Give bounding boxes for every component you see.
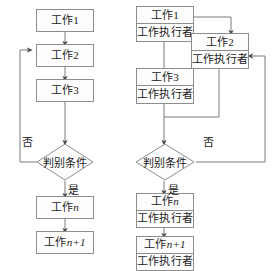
- node-r-work3[interactable]: 工作3 工作执行者: [136, 68, 194, 104]
- node-r-decision[interactable]: 判别条件: [135, 143, 195, 181]
- node-r-workn1[interactable]: 工作n+1 工作执行者: [136, 236, 194, 271]
- node-label: 工作3: [37, 80, 93, 101]
- node-label: 工作1: [37, 10, 93, 31]
- node-sublabel: 工作执行者: [137, 254, 193, 271]
- node-r-workn[interactable]: 工作n 工作执行者: [136, 193, 194, 228]
- node-l-decision[interactable]: 判别条件: [36, 143, 94, 181]
- node-label: 工作2: [192, 34, 248, 51]
- branch-label-l-no: 否: [22, 133, 33, 149]
- node-sublabel: 工作执行者: [137, 24, 193, 41]
- node-sublabel: 工作执行者: [137, 86, 193, 103]
- node-r-work2[interactable]: 工作2 工作执行者: [191, 33, 249, 69]
- node-label: 工作2: [37, 45, 93, 66]
- node-sublabel: 工作执行者: [192, 51, 248, 68]
- node-l-work1[interactable]: 工作1: [36, 9, 94, 32]
- node-r-work1[interactable]: 工作1 工作执行者: [136, 6, 194, 42]
- node-label: 工作n: [37, 197, 93, 218]
- node-label: 工作n+1: [137, 237, 193, 254]
- node-l-work3[interactable]: 工作3: [36, 79, 94, 102]
- node-label: 判别条件: [135, 143, 195, 181]
- node-label: 工作3: [137, 69, 193, 86]
- edge-r1-r2: [193, 17, 231, 33]
- node-l-workn[interactable]: 工作n: [36, 196, 94, 219]
- node-label: 判别条件: [36, 143, 94, 181]
- node-label: 工作n+1: [37, 232, 93, 253]
- flowchart-canvas: 工作1 工作2 工作3 判别条件 工作n 工作n+1 否 是 工作1 工作执行者…: [0, 0, 276, 271]
- node-l-workn1[interactable]: 工作n+1: [36, 231, 94, 254]
- node-label: 工作n: [137, 194, 193, 211]
- node-label: 工作1: [137, 7, 193, 24]
- branch-label-r-yes: 是: [168, 181, 179, 197]
- branch-label-r-no: 否: [203, 133, 214, 149]
- node-l-work2[interactable]: 工作2: [36, 44, 94, 67]
- branch-label-l-yes: 是: [68, 181, 79, 197]
- node-sublabel: 工作执行者: [137, 211, 193, 228]
